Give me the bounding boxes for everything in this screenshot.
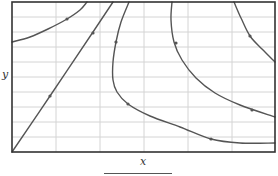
direction-arrow-icon — [126, 102, 129, 105]
phase-plot — [0, 0, 278, 176]
y-axis-label: y — [2, 69, 8, 80]
trajectory-1 — [12, 2, 87, 42]
direction-arrow-icon — [48, 94, 51, 97]
direction-arrow-icon — [91, 31, 94, 34]
caption-rule — [104, 173, 172, 174]
direction-arrow-icon — [248, 34, 251, 37]
trajectory-4 — [171, 2, 275, 117]
direction-arrow-icon — [209, 137, 212, 140]
x-axis-label: x — [140, 156, 146, 167]
direction-arrow-icon — [174, 41, 177, 44]
direction-arrow-icon — [250, 108, 253, 111]
direction-arrow-icon — [65, 17, 68, 20]
grid-lines — [12, 2, 275, 152]
direction-arrow-icon — [114, 40, 117, 43]
